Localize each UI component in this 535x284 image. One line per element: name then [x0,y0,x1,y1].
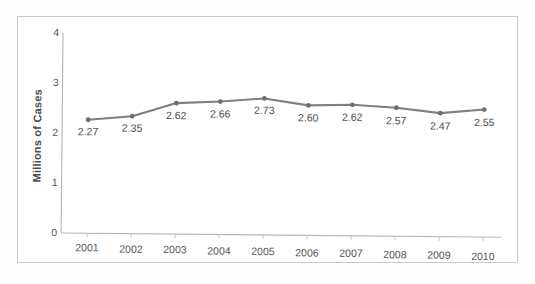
data-point-2007 [350,102,355,107]
x-tick-label-2008: 2008 [373,249,417,260]
data-label-2006: 2.60 [288,112,328,123]
data-label-2007: 2.62 [332,112,372,123]
x-tick-label-2003: 2003 [153,244,197,255]
x-tick-label-2002: 2002 [109,243,153,254]
x-tick-label-2009: 2009 [417,249,461,260]
data-label-2002: 2.35 [112,122,152,133]
data-label-2001: 2.27 [68,126,108,137]
data-point-2006 [306,103,311,108]
data-point-2002 [130,114,135,119]
data-label-2004: 2.66 [200,108,240,119]
data-point-2010 [482,107,487,112]
data-point-2004 [218,99,223,104]
x-axis-line [61,233,501,237]
data-point-2001 [86,117,91,122]
data-label-2008: 2.57 [376,115,416,126]
y-axis-line [61,33,63,233]
x-tick-label-2007: 2007 [329,248,373,259]
data-point-2009 [438,111,443,116]
data-label-2010: 2.55 [464,117,504,128]
data-label-2005: 2.73 [244,105,284,116]
data-label-2009: 2.47 [420,120,460,131]
x-tick-label-2004: 2004 [197,245,241,256]
data-point-2003 [174,101,179,106]
x-axis-ticks [87,233,483,241]
chart-page: Millions of Cases 4 3 2 1 0 [0,0,535,284]
x-tick-label-2001: 2001 [65,242,109,253]
x-tick-label-2005: 2005 [241,246,285,257]
data-label-2003: 2.62 [156,110,196,121]
chart-canvas: Millions of Cases 4 3 2 1 0 [0,0,535,284]
data-point-2005 [262,96,267,101]
x-tick-label-2010: 2010 [461,251,505,262]
x-tick-label-2006: 2006 [285,247,329,258]
data-point-2008 [394,105,399,110]
